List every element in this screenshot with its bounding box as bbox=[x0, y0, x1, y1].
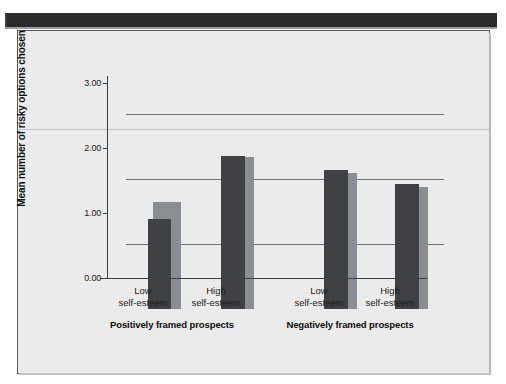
y-tick-mark-2 bbox=[103, 148, 108, 149]
group-label-negative: Negatively framed prospects bbox=[250, 319, 450, 330]
x-tick-label-2-line1: High bbox=[171, 285, 261, 297]
y-tick-label-2: 2.00 bbox=[71, 143, 101, 153]
scan-artifact-line bbox=[18, 129, 491, 130]
panel-right-edge bbox=[489, 33, 491, 374]
gridline-2 bbox=[126, 179, 444, 180]
y-tick-label-0: 0.00 bbox=[71, 273, 101, 283]
y-tick-mark-1 bbox=[103, 213, 108, 214]
x-tick-label-4: High self-esteem bbox=[345, 285, 435, 309]
scan-header-band bbox=[5, 13, 497, 27]
y-tick-label-3: 3.00 bbox=[71, 78, 101, 88]
x-tick-label-4-line2: self-esteem bbox=[345, 297, 435, 309]
y-tick-mark-3 bbox=[103, 83, 108, 84]
y-axis-title: Mean number of risky options chosen bbox=[16, 0, 27, 244]
scan-header-shadow bbox=[5, 27, 497, 29]
y-tick-mark-0 bbox=[103, 278, 108, 279]
x-tick-label-4-line1: High bbox=[345, 285, 435, 297]
x-tick-label-2: High self-esteem bbox=[171, 285, 261, 309]
y-axis-line bbox=[107, 76, 108, 279]
plot-area bbox=[126, 109, 444, 309]
gridline-3 bbox=[126, 114, 444, 115]
panel-bottom-edge bbox=[19, 373, 491, 375]
y-tick-label-1: 1.00 bbox=[71, 208, 101, 218]
figure-screenshot: Mean number of risky options chosen 3.0 bbox=[0, 0, 506, 384]
x-axis-line bbox=[100, 278, 427, 279]
group-label-positive: Positively framed prospects bbox=[72, 319, 272, 330]
x-tick-label-2-line2: self-esteem bbox=[171, 297, 261, 309]
